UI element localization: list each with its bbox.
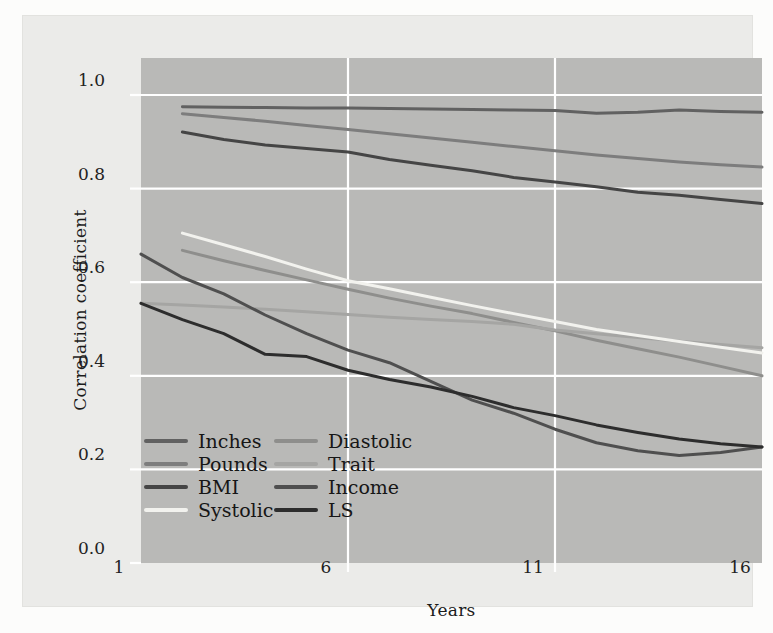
legend-item-ls: LS <box>274 499 354 521</box>
legend-label-diastolic: Diastolic <box>328 430 412 452</box>
y-tick-label: 0.8 <box>59 165 105 183</box>
series-line-inches <box>182 107 762 114</box>
x-axis-title: Years <box>141 600 762 620</box>
figure-page: { "figure": { "colors": { "page_bg": "#f… <box>0 0 773 633</box>
legend-item-bmi: BMI <box>144 476 239 498</box>
x-tick-label: 6 <box>303 558 349 576</box>
series-line-systolic <box>182 233 762 353</box>
legend-label-income: Income <box>328 476 399 498</box>
legend-swatch-bmi <box>144 485 188 489</box>
legend-item-systolic: Systolic <box>144 499 273 521</box>
legend-label-bmi: BMI <box>198 476 239 498</box>
legend-swatch-pounds <box>144 462 188 466</box>
legend-item-income: Income <box>274 476 399 498</box>
legend-item-diastolic: Diastolic <box>274 430 412 452</box>
legend-item-pounds: Pounds <box>144 453 268 475</box>
x-tick-label: 16 <box>717 558 763 576</box>
legend-swatch-inches <box>144 439 188 443</box>
legend-label-systolic: Systolic <box>198 499 273 521</box>
legend-swatch-trait <box>274 462 318 466</box>
y-tick-label: 0.0 <box>59 539 105 557</box>
legend-label-pounds: Pounds <box>198 453 268 475</box>
legend-swatch-income <box>274 485 318 489</box>
x-tick-label: 11 <box>510 558 556 576</box>
y-tick-label: 1.0 <box>59 71 105 89</box>
legend-swatch-ls <box>274 508 318 512</box>
x-tick-label: 1 <box>96 558 142 576</box>
y-tick-label: 0.2 <box>59 445 105 463</box>
y-axis-title: Correlation coefficient <box>70 209 90 411</box>
legend-label-inches: Inches <box>198 430 262 452</box>
series-line-diastolic <box>182 250 762 375</box>
legend-item-trait: Trait <box>274 453 375 475</box>
legend-label-trait: Trait <box>328 453 375 475</box>
legend-swatch-systolic <box>144 508 188 512</box>
series-line-pounds <box>182 114 762 167</box>
legend-label-ls: LS <box>328 499 354 521</box>
legend-swatch-diastolic <box>274 439 318 443</box>
figure-panel: 0.00.20.40.60.81.0 161116 Correlation co… <box>22 15 753 607</box>
legend-item-inches: Inches <box>144 430 262 452</box>
